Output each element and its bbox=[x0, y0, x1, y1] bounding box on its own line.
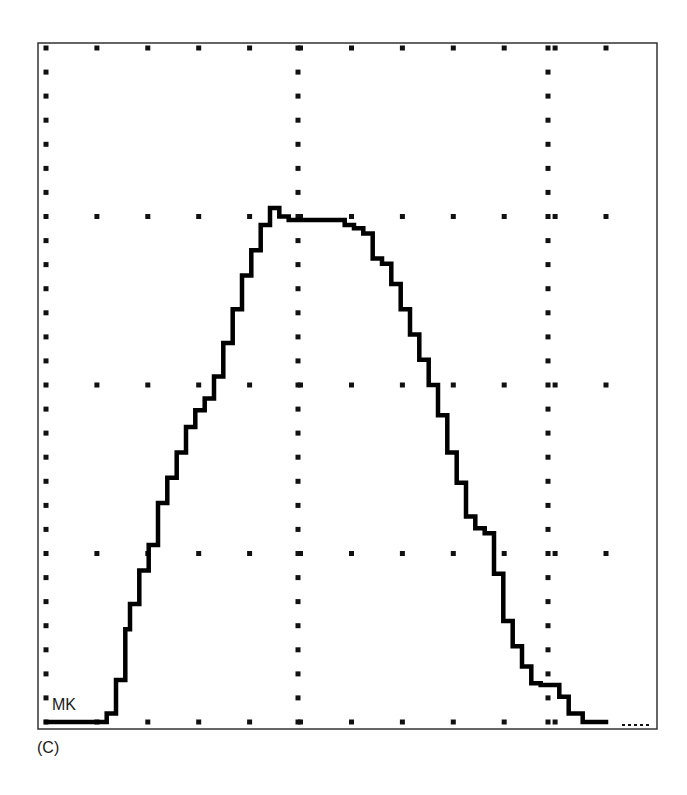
panel-label: (C) bbox=[37, 739, 59, 757]
chart-plot-area bbox=[0, 0, 687, 795]
baseline-tail-dots bbox=[622, 724, 649, 726]
trace-label: MK bbox=[52, 696, 76, 714]
data-trace-mk bbox=[46, 208, 606, 722]
